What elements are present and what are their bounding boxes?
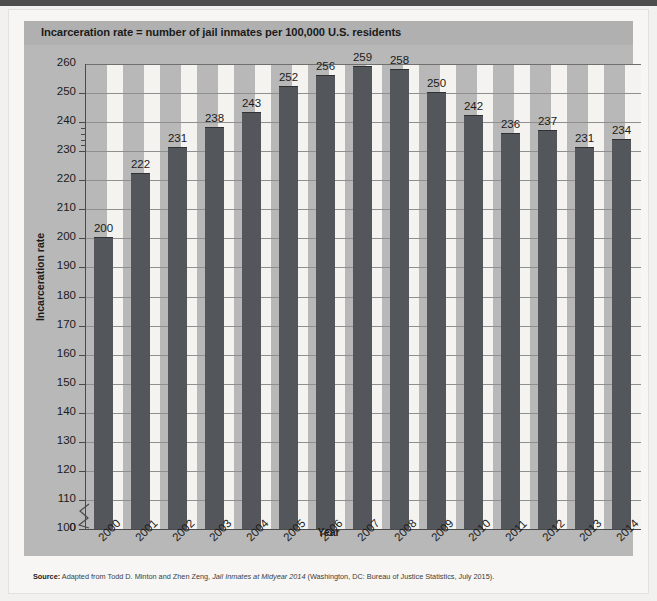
bar-value-label: 243 (236, 97, 267, 109)
bar-value-label: 252 (273, 71, 304, 83)
bar[interactable] (427, 92, 446, 529)
bar[interactable] (131, 173, 150, 529)
bar[interactable] (501, 133, 520, 529)
bar-value-label: 236 (495, 118, 526, 130)
y-tick-mark (79, 267, 86, 268)
y-tick-mark (79, 238, 86, 239)
y-tick-label: 220 (24, 172, 76, 184)
y-tick-label: 240 (24, 114, 76, 126)
y-tick-label: 100 (24, 521, 76, 533)
bar[interactable] (390, 69, 409, 529)
figure-container: Incarceration rate = number of jail inma… (9, 10, 648, 593)
y-tick-mark (79, 471, 86, 472)
chart-title: Incarceration rate = number of jail inma… (41, 26, 401, 38)
bar[interactable] (316, 75, 335, 529)
y-tick-label: 230 (24, 143, 76, 155)
bar-series: 2002222312382432522562592582502422362372… (86, 64, 641, 529)
y-tick-mark (79, 442, 86, 443)
y-tick-label: 120 (24, 463, 76, 475)
y-tick-label: 170 (24, 318, 76, 330)
y-minor-tick-mark (81, 134, 86, 135)
bar-value-label: 234 (606, 124, 637, 136)
bar-value-label: 238 (199, 112, 230, 124)
bar-value-label: 242 (458, 100, 489, 112)
y-tick-label: 150 (24, 376, 76, 388)
bar[interactable] (242, 112, 261, 529)
bar-value-label: 231 (162, 132, 193, 144)
y-tick-mark (79, 326, 86, 327)
y-tick-label: 200 (24, 230, 76, 242)
y-tick-mark (79, 209, 86, 210)
bar-value-label: 256 (310, 60, 341, 72)
y-tick-mark (79, 384, 86, 385)
y-tick-label: 190 (24, 259, 76, 271)
source-label: Source: (33, 572, 60, 581)
y-tick-mark (79, 500, 86, 501)
y-tick-mark (79, 122, 86, 123)
bar-value-label: 222 (125, 158, 156, 170)
bar-value-label: 250 (421, 77, 452, 89)
y-tick-label: 180 (24, 289, 76, 301)
bar[interactable] (464, 115, 483, 529)
chart-panel: Incarceration rate = number of jail inma… (24, 21, 633, 556)
bar-value-label: 200 (88, 222, 119, 234)
bar[interactable] (205, 127, 224, 529)
bar-value-label: 231 (569, 132, 600, 144)
y-tick-mark (79, 297, 86, 298)
source-note: Source: Adapted from Todd D. Minton and … (33, 572, 633, 581)
y-tick-mark (79, 151, 86, 152)
bar[interactable] (353, 66, 372, 529)
y-tick-label: 260 (24, 56, 76, 68)
y-tick-label: 110 (24, 492, 76, 504)
plot-area: 2002222312382432522562592582502422362372… (86, 64, 641, 529)
bar[interactable] (612, 139, 631, 529)
bar[interactable] (168, 147, 187, 529)
y-tick-mark (79, 93, 86, 94)
source-text-2: (Washington, DC: Bureau of Justice Stati… (305, 572, 494, 581)
y-tick-mark (79, 355, 86, 356)
bar[interactable] (538, 130, 557, 529)
y-tick-label: 160 (24, 347, 76, 359)
bar-value-label: 258 (384, 54, 415, 66)
bar-value-label: 259 (347, 51, 378, 63)
source-text-1: Adapted from Todd D. Minton and Zhen Zen… (60, 572, 212, 581)
y-minor-tick-mark (81, 140, 86, 141)
y-tick-label: 210 (24, 201, 76, 213)
source-title: Jail Inmates at Midyear 2014 (212, 572, 305, 581)
y-tick-mark (79, 529, 86, 530)
y-tick-mark (79, 413, 86, 414)
y-tick-mark (79, 180, 86, 181)
bar-value-label: 237 (532, 115, 563, 127)
bar[interactable] (94, 237, 113, 529)
bar[interactable] (279, 86, 298, 529)
y-tick-label: 250 (24, 85, 76, 97)
page-top-edge (0, 0, 657, 6)
y-minor-tick-mark (81, 128, 86, 129)
y-minor-tick-mark (81, 145, 86, 146)
y-tick-label: 140 (24, 405, 76, 417)
y-tick-label: 130 (24, 434, 76, 446)
bar[interactable] (575, 147, 594, 529)
